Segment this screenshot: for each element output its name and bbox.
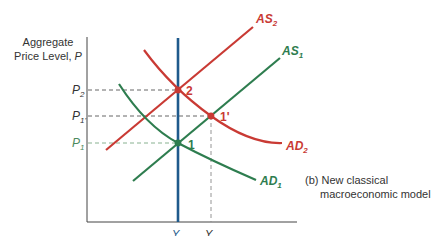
as2-label: AS2 [255,12,278,28]
caption-line1: (b) New classical [305,174,388,186]
ad2-curve [144,50,282,143]
ad2-label: AD2 [285,139,308,155]
point-1 [175,140,182,147]
x-axis-title: Aggregate Output, Y [200,235,301,236]
as1-label: AS1 [281,44,304,60]
ad1-label: AD1 [259,174,282,190]
point-2 [175,87,182,94]
x-tick-yn: Yn [172,228,184,236]
point-1-label: 1 [188,138,195,152]
y-axis-title-line2: Price Level, P [14,50,83,62]
caption-line2: macroeconomic model [320,188,431,200]
point-1prime-label: 1' [220,110,230,124]
y-tick-p2: P2 [72,83,85,99]
y-tick-p1: P1 [72,136,84,152]
y-tick-p1prime: P1' [72,109,86,125]
point-2-label: 2 [186,84,193,98]
as1-curve [133,58,280,181]
point-1prime [208,113,215,120]
chart-svg: 2 1' 1 AS2 AS1 AD2 AD1 Aggregate Price L… [0,0,438,236]
y-axis-title-line1: Aggregate [23,36,74,48]
